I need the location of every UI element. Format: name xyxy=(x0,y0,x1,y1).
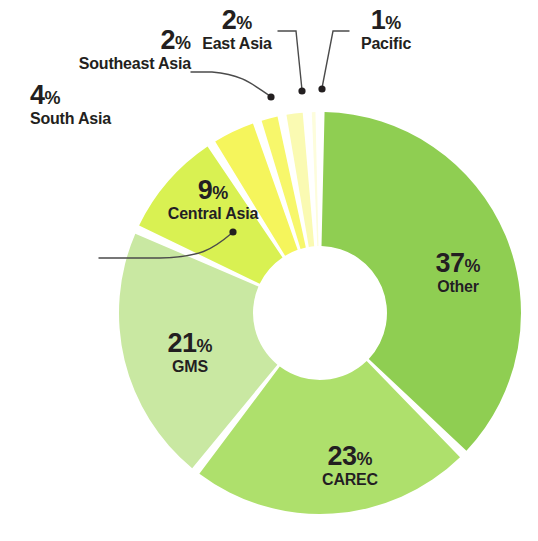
slice-percent-gms: 21% xyxy=(125,330,255,357)
leader-dot-east-asia xyxy=(298,87,305,94)
leader-line-east-asia xyxy=(278,31,302,90)
slice-name-south-asia: South Asia xyxy=(30,111,102,127)
slice-name-pacific: Pacific xyxy=(350,36,422,52)
slice-name-carec: CAREC xyxy=(285,472,415,488)
slice-label-southeast-asia: 2% Southeast Asia xyxy=(31,27,191,72)
slice-label-central-asia: 9% Central Asia xyxy=(138,177,288,222)
slice-name-other: Other xyxy=(398,279,518,295)
slice-name-southeast-asia: Southeast Asia xyxy=(31,56,191,72)
donut-chart-figure: 37% Other 23% CAREC 21% GMS 9% Central A… xyxy=(0,0,538,541)
leader-line-pacific xyxy=(322,31,349,88)
slice-percent-east-asia: 2% xyxy=(196,7,278,34)
slice-name-gms: GMS xyxy=(125,359,255,375)
slice-label-pacific: 1% Pacific xyxy=(350,7,422,52)
donut-slice-pacific[interactable] xyxy=(312,112,319,246)
slice-label-south-asia: 4% South Asia xyxy=(30,82,102,127)
slice-percent-central-asia: 9% xyxy=(138,177,288,204)
slice-name-central-asia: Central Asia xyxy=(138,206,288,222)
slice-name-east-asia: East Asia xyxy=(196,36,278,52)
slice-label-other: 37% Other xyxy=(398,250,518,295)
leader-line-southeast-asia xyxy=(191,72,270,96)
slice-percent-southeast-asia: 2% xyxy=(31,27,191,54)
leader-dot-south-asia xyxy=(229,228,236,235)
slice-percent-carec: 23% xyxy=(285,443,415,470)
slice-percent-pacific: 1% xyxy=(350,7,422,34)
slice-label-gms: 21% GMS xyxy=(125,330,255,375)
slice-percent-other: 37% xyxy=(398,250,518,277)
leader-dot-pacific xyxy=(318,85,325,92)
slice-label-carec: 23% CAREC xyxy=(285,443,415,488)
slice-percent-south-asia: 4% xyxy=(30,82,102,109)
slice-label-east-asia: 2% East Asia xyxy=(196,7,278,52)
leader-dot-southeast-asia xyxy=(267,93,274,100)
